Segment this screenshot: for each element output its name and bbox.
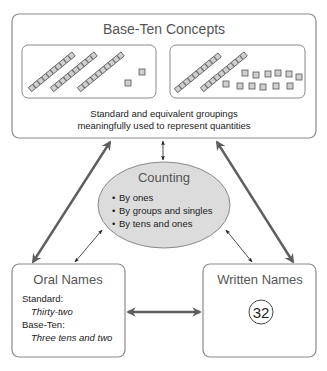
oral-names-title: Oral Names bbox=[33, 272, 103, 287]
unit-cube bbox=[125, 80, 131, 86]
counting-title: Counting bbox=[138, 170, 190, 185]
base-ten-model-right bbox=[170, 45, 305, 98]
oral-base-ten-value: Three tens and two bbox=[31, 332, 112, 343]
oral-standard-label: Standard: bbox=[22, 293, 63, 304]
unit-cube bbox=[249, 83, 255, 89]
unit-cube bbox=[139, 69, 145, 75]
unit-cube bbox=[237, 83, 243, 89]
counting-bullet: • bbox=[112, 205, 115, 216]
base-ten-diagram: Base-Ten Concepts Standard and equivalen… bbox=[0, 0, 327, 371]
counting-item-by-ones: By ones bbox=[119, 192, 154, 203]
oral-names-box: Oral Names Standard: Thirty-two Base-Ten… bbox=[12, 264, 125, 357]
unit-cube bbox=[223, 81, 229, 87]
arrow-counting-written bbox=[226, 230, 252, 262]
counting-item-by-tens: By tens and ones bbox=[119, 218, 193, 229]
oral-standard-value: Thirty-two bbox=[31, 306, 73, 317]
unit-cube bbox=[265, 71, 271, 77]
base-ten-title: Base-Ten Concepts bbox=[103, 21, 225, 37]
counting-item-by-groups: By groups and singles bbox=[119, 205, 213, 216]
unit-cube bbox=[286, 71, 292, 77]
counting-bullet: • bbox=[112, 192, 115, 203]
arrow-counting-oral bbox=[75, 230, 102, 262]
written-numeral: 32 bbox=[253, 304, 270, 321]
counting-ellipse: Counting • By ones • By groups and singl… bbox=[98, 162, 230, 248]
oral-base-ten-label: Base-Ten: bbox=[22, 319, 65, 330]
base-ten-caption-line2: meaningfully used to represent quantitie… bbox=[77, 120, 250, 131]
unit-cube bbox=[296, 74, 302, 80]
unit-cube bbox=[253, 72, 259, 78]
written-names-box: Written Names 32 bbox=[203, 264, 316, 357]
base-ten-concepts-box: Base-Ten Concepts Standard and equivalen… bbox=[12, 14, 316, 138]
unit-cube bbox=[242, 70, 248, 76]
written-names-title: Written Names bbox=[217, 272, 303, 287]
unit-cube bbox=[287, 83, 293, 89]
unit-cube bbox=[260, 84, 266, 90]
base-ten-caption-line1: Standard and equivalent groupings bbox=[90, 108, 238, 119]
counting-bullet: • bbox=[112, 218, 115, 229]
unit-cube bbox=[273, 83, 279, 89]
unit-cube bbox=[275, 70, 281, 76]
base-ten-model-left bbox=[22, 45, 156, 98]
